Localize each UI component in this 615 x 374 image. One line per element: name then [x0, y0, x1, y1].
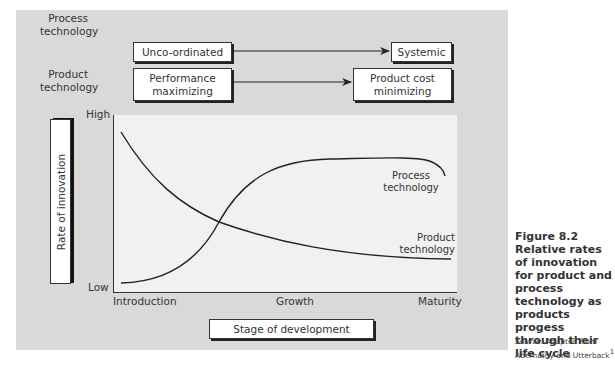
source-ref: 1 — [610, 348, 614, 356]
process-curve-label: Process technology — [381, 170, 441, 194]
label-line: Process — [381, 170, 441, 182]
label-line: technology — [395, 244, 455, 256]
label-line: technology — [381, 182, 441, 194]
figure-source: Source: Adapted from Abernathy and Utter… — [515, 337, 615, 361]
label-line: Product — [395, 232, 455, 244]
source-prefix: Source: — [515, 337, 543, 346]
figure-number: Figure 8.2 — [515, 230, 615, 243]
product-curve-label: Product technology — [395, 232, 455, 256]
